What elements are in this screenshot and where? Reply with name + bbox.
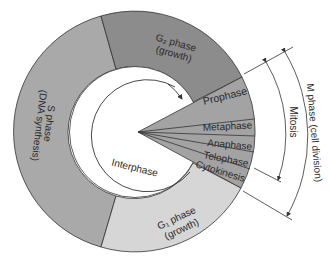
- cell-cycle-diagram: Prophase Metaphase Anaphase Telophase Cy…: [0, 0, 329, 264]
- mitosis-label: Mitosis: [288, 106, 299, 137]
- bracket-leader-top: [244, 47, 293, 74]
- bracket-leader-mphase: [243, 191, 292, 220]
- mitosis-bracket-arc: [266, 62, 286, 180]
- bracket-leader-mitosis: [254, 168, 281, 182]
